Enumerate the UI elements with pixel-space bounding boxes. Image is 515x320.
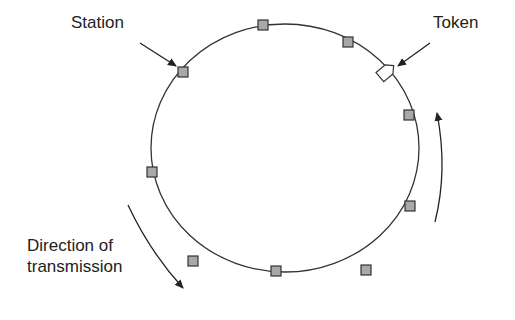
station-node: [405, 201, 415, 211]
station-node: [188, 256, 198, 266]
station-pointer-arrow: [140, 43, 176, 66]
stations: [147, 20, 415, 276]
station-label: Station: [71, 13, 124, 33]
station-node: [271, 266, 281, 276]
station-node: [404, 110, 414, 120]
ring: [151, 24, 419, 272]
token-icon: [376, 61, 398, 82]
station-node: [178, 67, 188, 77]
station-node: [258, 20, 268, 30]
direction-label-line1: Direction of: [27, 236, 113, 256]
station-node: [147, 167, 157, 177]
token-label: Token: [433, 13, 478, 33]
station-node: [361, 265, 371, 275]
direction-arrow-right: [435, 113, 442, 222]
token-pointer-arrow: [398, 43, 430, 66]
direction-label-line2: transmission: [27, 257, 122, 277]
station-node: [343, 37, 353, 47]
